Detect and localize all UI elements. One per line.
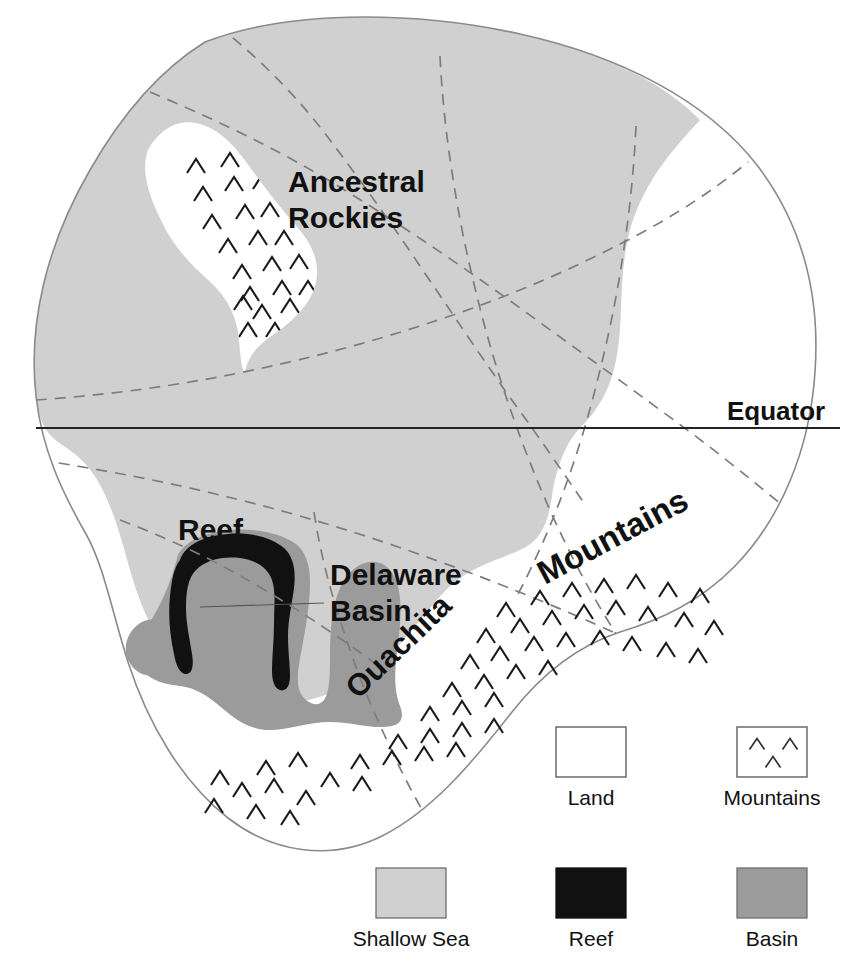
legend-item-land[interactable]: Land bbox=[556, 727, 626, 809]
legend-swatch-shallow-sea bbox=[376, 868, 446, 918]
label-reef: Reef bbox=[178, 513, 244, 546]
label-equator: Equator bbox=[727, 396, 825, 426]
map-canvas: Ancestral Rockies Reef Delaware Basin Ou… bbox=[0, 0, 859, 980]
legend-swatch-reef bbox=[556, 868, 626, 918]
legend-label-mountains: Mountains bbox=[724, 786, 821, 809]
legend-item-reef[interactable]: Reef bbox=[556, 868, 626, 950]
legend-item-mountains[interactable]: Mountains bbox=[724, 727, 821, 809]
paleogeographic-map: Ancestral Rockies Reef Delaware Basin Ou… bbox=[0, 0, 859, 980]
legend-item-basin[interactable]: Basin bbox=[737, 868, 807, 950]
legend-swatch-land bbox=[556, 727, 626, 777]
legend-label-shallow-sea: Shallow Sea bbox=[353, 927, 470, 950]
label-mountains-range: Mountains bbox=[531, 481, 694, 591]
legend-item-shallow-sea[interactable]: Shallow Sea bbox=[353, 868, 470, 950]
legend-label-basin: Basin bbox=[746, 927, 799, 950]
legend-label-land: Land bbox=[568, 786, 615, 809]
legend-swatch-mountains bbox=[737, 727, 807, 777]
legend-swatch-basin bbox=[737, 868, 807, 918]
legend-label-reef: Reef bbox=[569, 927, 614, 950]
